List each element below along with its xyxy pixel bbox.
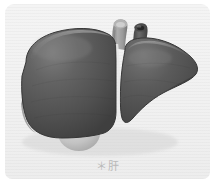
liver-illustration [0, 0, 215, 186]
left-lobe [120, 38, 197, 123]
interlobar-fissure [117, 44, 119, 120]
right-lobe [21, 28, 116, 138]
liver-figure: ＊肝 [0, 0, 215, 186]
figure-caption: ＊肝 [0, 160, 215, 173]
